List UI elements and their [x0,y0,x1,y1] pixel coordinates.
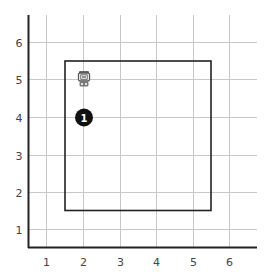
x-tick-6: 6 [226,256,233,269]
marker-1[interactable]: 1 [75,109,93,127]
grid-lines [28,15,257,247]
y-tick-6: 6 [16,37,23,50]
y-tick-5: 5 [16,74,23,87]
x-tick-3: 3 [117,256,124,269]
robot-icon[interactable] [79,71,90,87]
x-tick-labels: 1 2 3 4 5 6 [43,256,233,269]
x-tick-2: 2 [80,256,87,269]
y-tick-2: 2 [16,187,23,200]
x-tick-5: 5 [190,256,197,269]
grid-plot: 1 2 3 4 5 6 1 2 3 4 5 6 1 [0,0,276,280]
x-tick-4: 4 [153,256,160,269]
y-tick-labels: 1 2 3 4 5 6 [16,37,23,237]
y-tick-4: 4 [16,112,23,125]
y-tick-1: 1 [16,224,23,237]
marker-label: 1 [81,113,88,124]
x-tick-1: 1 [43,256,50,269]
y-tick-3: 3 [16,150,23,163]
